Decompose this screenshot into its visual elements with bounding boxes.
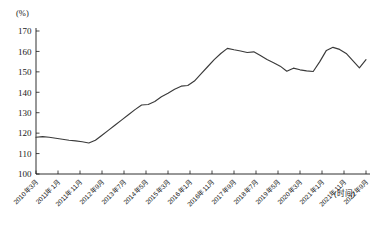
y-tick-label: 100 — [18, 169, 32, 179]
x-tick-marks — [36, 171, 366, 175]
y-tick-marks — [36, 31, 40, 174]
y-tick-label: 170 — [18, 26, 32, 36]
x-axis-title: (时间) — [334, 188, 356, 198]
y-tick-labels: 100110120130140150160170 — [18, 26, 32, 179]
x-axis-group: 2010年3月2011年1月2011年11月2012年9月2013年7月2014… — [11, 171, 370, 209]
y-tick-label: 140 — [18, 88, 32, 98]
y-tick-label: 110 — [18, 149, 32, 159]
line-chart-figure: (%) 100110120130140150160170 2010年3月2011… — [0, 0, 380, 227]
y-axis-unit-label: (%) — [16, 8, 29, 18]
y-tick-label: 120 — [18, 128, 32, 138]
y-axis-group: (%) 100110120130140150160170 — [16, 8, 40, 179]
plot-area — [36, 47, 366, 143]
data-series-line — [36, 47, 366, 143]
y-tick-label: 150 — [18, 67, 32, 77]
x-tick-labels: 2010年3月2011年1月2011年11月2012年9月2013年7月2014… — [11, 177, 370, 208]
y-tick-label: 130 — [18, 108, 32, 118]
y-tick-label: 160 — [18, 47, 32, 57]
chart-canvas: (%) 100110120130140150160170 2010年3月2011… — [0, 0, 380, 227]
